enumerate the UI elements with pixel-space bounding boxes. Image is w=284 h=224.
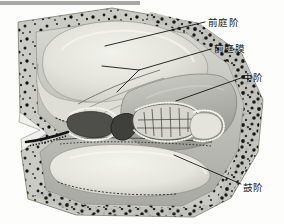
cochlea-specimen-image	[0, 0, 284, 224]
label-scala-vestibuli: 前庭阶	[208, 17, 239, 28]
cochlea-figure: 前庭阶 前庭膜 中阶 鼓阶	[0, 0, 284, 224]
label-scala-tympani: 鼓阶	[243, 182, 264, 193]
label-scala-media: 中阶	[243, 72, 264, 83]
label-vestibular-membrane: 前庭膜	[214, 43, 245, 54]
